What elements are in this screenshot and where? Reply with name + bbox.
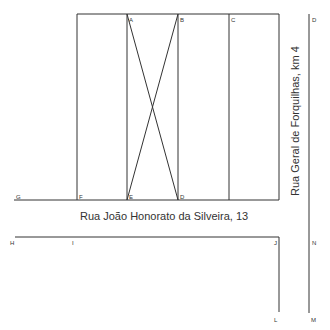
street-label-right: Rua Geral de Forquilhas, km 4 — [289, 46, 301, 196]
point-label-c: C — [231, 17, 236, 23]
point-label-m: M — [311, 317, 316, 323]
point-label-g: G — [16, 194, 21, 200]
point-label-j: J — [274, 240, 277, 246]
point-label-l: L — [274, 317, 278, 323]
point-label-d-bottom: D — [180, 194, 185, 200]
point-label-n: N — [312, 240, 316, 246]
street-label-bottom: Rua João Honorato da Silveira, 13 — [80, 210, 248, 222]
point-label-d-top: D — [312, 17, 317, 23]
point-label-f: F — [79, 194, 83, 200]
point-label-i: I — [72, 240, 74, 246]
site-plan-diagram: A B C D G F E D H I J N L M Rua João Hon… — [0, 0, 330, 330]
point-label-e: E — [129, 194, 133, 200]
point-label-h: H — [10, 240, 14, 246]
point-label-a: A — [129, 17, 133, 23]
point-label-b: B — [180, 17, 184, 23]
